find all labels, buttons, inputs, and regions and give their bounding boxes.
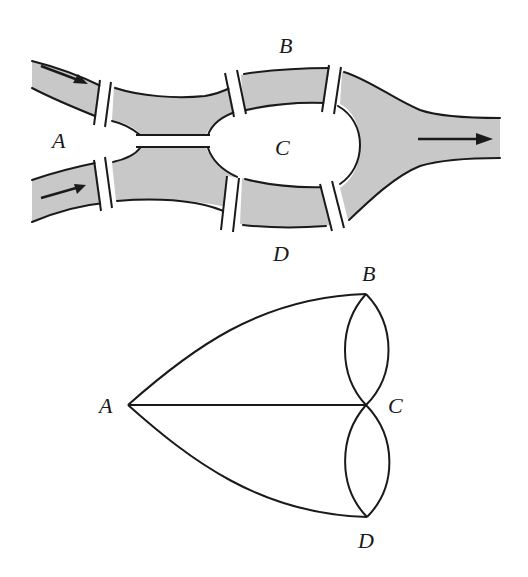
river-branch-upper bbox=[241, 68, 330, 112]
bridge-3 bbox=[136, 135, 210, 148]
edge-a-b bbox=[128, 294, 366, 405]
edge-b-c-left bbox=[345, 294, 366, 405]
edge-a-d bbox=[128, 405, 367, 517]
edge-b-c-right bbox=[366, 294, 389, 405]
label-graph-d: D bbox=[357, 528, 374, 553]
label-map-c: C bbox=[275, 135, 290, 160]
edge-c-d-left bbox=[345, 405, 367, 517]
label-graph-a: A bbox=[97, 393, 113, 418]
river-map: A B C D bbox=[32, 33, 500, 266]
river-upper-left bbox=[32, 61, 105, 118]
river-outlet bbox=[340, 72, 500, 220]
label-graph-c: C bbox=[388, 393, 403, 418]
label-map-d: D bbox=[272, 241, 289, 266]
label-map-b: B bbox=[279, 33, 292, 58]
bridge-graph: A B C D bbox=[97, 261, 403, 553]
label-graph-b: B bbox=[362, 261, 375, 286]
label-map-a: A bbox=[50, 128, 66, 153]
edge-c-d-right bbox=[366, 405, 389, 517]
konigsberg-figure: A B C D A B C D bbox=[0, 0, 528, 577]
